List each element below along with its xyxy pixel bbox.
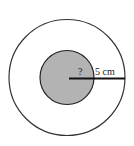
unknown-radius-label: ?: [78, 66, 83, 77]
concentric-circles-diagram: ? 5 cm: [0, 0, 134, 146]
outer-radius-label: 5 cm: [95, 66, 115, 77]
inner-circle-shaded: [40, 51, 94, 105]
